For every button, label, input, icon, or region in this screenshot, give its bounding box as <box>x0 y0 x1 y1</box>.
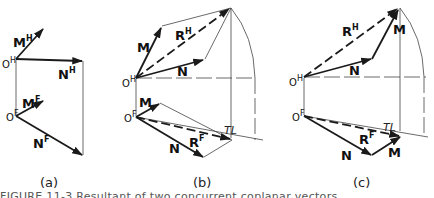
parallelogram-side <box>205 8 231 59</box>
label-origin-front: OF <box>6 109 19 123</box>
label-origin-top: OH <box>289 74 303 88</box>
label-n-front: NF <box>33 135 49 151</box>
label-n-top: N <box>177 64 188 79</box>
label-origin-front: OF <box>124 110 137 124</box>
panel-label-b: (b) <box>193 175 211 190</box>
label-m-top: MH <box>13 34 33 50</box>
label-true-length: TL <box>224 124 237 137</box>
label-m-top: M <box>393 22 406 37</box>
resultant-front <box>136 117 230 139</box>
label-origin-top: OH <box>122 75 136 89</box>
label-m-front: MF <box>22 95 40 111</box>
label-n-front: N <box>169 141 180 156</box>
panel-label-a: (a) <box>40 175 58 190</box>
rotation-arc <box>400 8 424 77</box>
panel-label-c: (c) <box>353 175 370 190</box>
parallelogram-side <box>204 140 232 157</box>
panel-a <box>16 29 83 155</box>
label-m-front: M <box>139 95 152 110</box>
figure-caption: FIGURE 11-3 Resultant of two concurrent … <box>0 190 337 198</box>
label-m-front: M <box>388 145 401 160</box>
parallelogram-side <box>162 8 231 26</box>
label-origin-front: OF <box>292 109 305 123</box>
label-n-top: N <box>349 63 360 78</box>
label-n-front: N <box>341 148 352 163</box>
label-n-top: NH <box>58 66 76 82</box>
label-resultant-top: RH <box>175 27 192 43</box>
vector-diagram: MH NH OH MF OF NF (a) M RH N OH M OF N R… <box>0 0 434 198</box>
label-resultant-top: RH <box>342 23 359 39</box>
label-origin-top: OH <box>2 56 16 70</box>
vector-n-top <box>16 59 82 61</box>
label-m-top: M <box>137 40 150 55</box>
label-resultant-front: RF <box>189 134 204 150</box>
rotation-arc <box>231 8 255 78</box>
label-true-length: TL <box>383 121 396 134</box>
vector-n-top <box>136 60 203 78</box>
vector-n-top <box>304 59 371 77</box>
label-resultant-front: RF <box>359 131 374 147</box>
